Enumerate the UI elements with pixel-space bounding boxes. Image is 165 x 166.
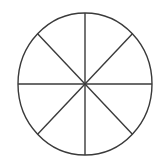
fraction-circle-diagram bbox=[0, 0, 165, 166]
figure-canvas bbox=[0, 0, 165, 166]
